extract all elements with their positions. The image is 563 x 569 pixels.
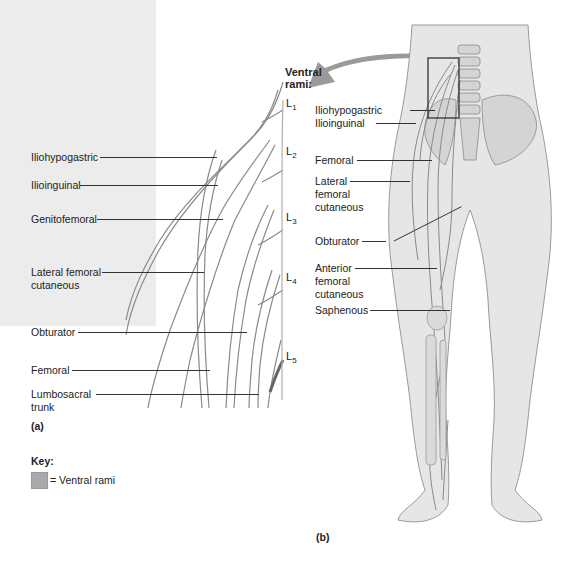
label-ilioinguinal-a: Ilioinguinal [31,179,81,191]
leader-iliohypogastric-b [410,110,435,111]
label-lumbosacral-a-line2: trunk [31,401,54,413]
leader-obturator-b [362,241,386,242]
label-femoral-b: Femoral [315,154,354,166]
leader-femoral-b [357,160,432,161]
label-lateral-femoral-a-line1: Lateral femoral [31,266,101,278]
level-l3: L3 [286,211,297,226]
label-lateral-femoral-b-line3: cutaneous [315,201,363,213]
level-l4: L4 [286,271,297,286]
level-l1: L1 [286,97,297,112]
label-iliohypogastric-a: Iliohypogastric [31,151,98,163]
panel-tag-b: (b) [316,531,329,543]
label-iliohypogastric-b: Iliohypogastric [315,104,382,116]
key-label-ventral-rami: = Ventral rami [50,474,115,486]
label-genitofemoral-a: Genitofemoral [31,213,97,225]
leader-saphenous-b [370,310,450,311]
label-lumbosacral-a-line1: Lumbosacral [31,388,91,400]
leader-ilioinguinal-a [80,185,218,186]
ventral-rami-heading-line2: rami: [285,78,312,90]
label-obturator-a: Obturator [31,326,75,338]
leader-lateral-femoral-cutaneous-a [102,272,204,273]
label-anterior-femoral-b-line1: Anterior [315,262,352,274]
leader-obturator-a [78,332,247,333]
key-title: Key: [31,455,54,467]
label-saphenous-b: Saphenous [315,304,368,316]
label-obturator-b: Obturator [315,235,359,247]
label-ilioinguinal-b: Ilioinguinal [315,117,365,129]
label-anterior-femoral-b-line3: cutaneous [315,288,363,300]
label-lateral-femoral-a-line2: cutaneous [31,279,79,291]
label-anterior-femoral-b-line2: femoral [315,275,350,287]
label-lateral-femoral-b-line2: femoral [315,188,350,200]
leader-genitofemoral-a [97,219,223,220]
ventral-rami-heading-line1: Ventral [285,66,322,78]
level-l5: L5 [286,350,297,365]
lumbar-plexus-nerves [126,82,283,408]
leader-lateral-femoral-b [350,181,410,182]
label-femoral-a: Femoral [31,364,70,376]
level-l2: L2 [286,145,297,160]
leader-anterior-femoral-b [355,268,437,269]
panel-tag-a: (a) [31,420,44,432]
leader-femoral-a [72,370,210,371]
key-swatch-ventral-rami [31,472,48,489]
leader-iliohypogastric-a [100,157,217,158]
leader-ilioinguinal-b [376,123,416,124]
leader-lumbosacral-trunk-a [96,394,259,395]
label-lateral-femoral-b-line1: Lateral [315,175,347,187]
